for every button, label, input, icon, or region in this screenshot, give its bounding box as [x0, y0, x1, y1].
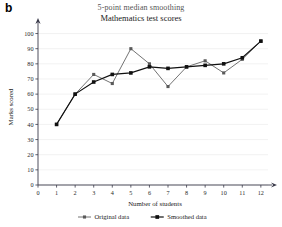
legend-label: Smoothed data [167, 213, 206, 220]
data-point [92, 80, 96, 84]
x-tick-label: 8 [185, 189, 188, 196]
y-tick-label: 0 [30, 181, 33, 188]
x-tick-label: 9 [204, 189, 207, 196]
y-tick-label: 40 [27, 121, 33, 128]
data-point [73, 92, 77, 96]
data-point [203, 64, 207, 68]
x-tick-label: 5 [129, 189, 132, 196]
data-point [259, 39, 263, 43]
data-point [222, 62, 226, 66]
axis-lines [35, 18, 277, 188]
y-tick-label: 20 [27, 151, 33, 158]
y-tick-label: 60 [27, 90, 33, 97]
x-tick-label: 7 [166, 189, 169, 196]
data-point [185, 65, 189, 69]
data-point [129, 71, 133, 75]
data-point [240, 56, 244, 60]
x-tick-label: 4 [111, 189, 114, 196]
data-series-group [55, 39, 263, 126]
x-tick-label: 3 [92, 189, 95, 196]
x-axis-label: Number of students [128, 200, 182, 207]
data-point [148, 62, 151, 65]
x-tick-label: 1 [55, 189, 58, 196]
y-tick-label: 10 [27, 166, 33, 173]
grid-lines [38, 34, 268, 185]
legend-marker [83, 215, 86, 218]
x-tick-label: 11 [239, 189, 245, 196]
x-tick-label: 0 [36, 189, 39, 196]
x-tick-label: 2 [74, 189, 77, 196]
line-chart: 0102030405060708090100 0123456789101112 … [0, 0, 282, 227]
y-tick-label: 30 [27, 136, 33, 143]
y-tick-label: 70 [27, 75, 33, 82]
y-tick-label: 100 [24, 30, 33, 37]
series-line-2 [57, 41, 261, 124]
data-point [92, 73, 95, 76]
x-tick-label: 6 [148, 189, 151, 196]
data-point [111, 82, 114, 85]
data-point [166, 85, 169, 88]
legend-label: Original data [95, 213, 130, 220]
legend-marker [155, 215, 159, 219]
x-tick-label: 12 [258, 189, 264, 196]
y-tick-label: 50 [27, 105, 33, 112]
data-point [110, 73, 114, 77]
data-point [204, 59, 207, 62]
chart-plot-area: 0102030405060708090100 0123456789101112 … [0, 0, 282, 227]
y-tick-label: 80 [27, 60, 33, 67]
data-point [129, 47, 132, 50]
x-tick-label: 10 [221, 189, 227, 196]
y-axis-ticks: 0102030405060708090100 [24, 30, 38, 188]
data-point [166, 67, 170, 71]
data-point [55, 123, 59, 127]
y-tick-label: 90 [27, 45, 33, 52]
chart-legend: Original dataSmoothed data [78, 213, 207, 220]
series-line-1 [57, 41, 261, 124]
y-axis-label: Marks scored [7, 88, 14, 125]
data-point [222, 71, 225, 74]
x-axis-ticks: 0123456789101112 [36, 185, 263, 196]
data-point [148, 65, 152, 69]
